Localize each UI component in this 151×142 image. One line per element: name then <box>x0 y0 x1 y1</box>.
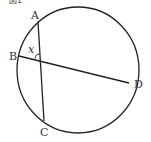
point-label-a: A <box>30 9 40 22</box>
angle-label-x: x <box>28 43 35 56</box>
point-label-c: C <box>40 126 48 139</box>
circle-diagram: 図1 A B C D x <box>0 0 151 142</box>
point-label-d: D <box>134 78 143 91</box>
chord-bd <box>19 56 129 83</box>
chord-ac <box>38 22 44 121</box>
point-label-b: B <box>9 50 17 63</box>
angle-arc <box>35 54 40 59</box>
figure-caption: 図1 <box>9 0 22 5</box>
